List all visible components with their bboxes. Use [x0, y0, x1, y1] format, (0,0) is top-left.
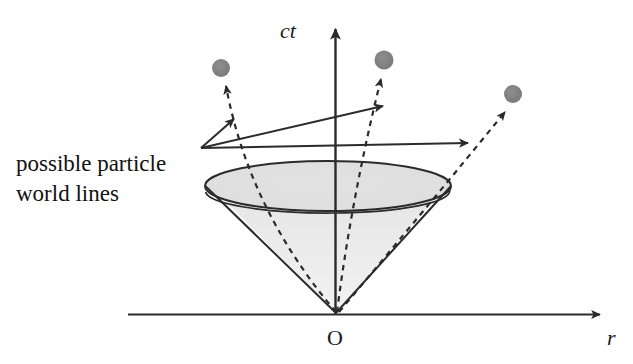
- particle-dot-right: [504, 85, 522, 103]
- light-cone: [205, 161, 451, 313]
- origin-label: O: [327, 325, 343, 350]
- annotation-arrow-medium: [201, 106, 383, 148]
- ct-axis-label: ct: [280, 18, 297, 43]
- light-cone-diagram: ct r O possible particle world lines: [0, 0, 633, 364]
- figure-root: ct r O possible particle world lines: [0, 0, 633, 364]
- particle-dot-middle: [375, 51, 394, 70]
- annotation-line-1: possible particle: [16, 151, 166, 176]
- particle-dots-group: [212, 51, 522, 104]
- annotation-line-2: world lines: [16, 181, 119, 206]
- particle-dot-left: [212, 59, 230, 77]
- r-axis-label: r: [607, 325, 616, 350]
